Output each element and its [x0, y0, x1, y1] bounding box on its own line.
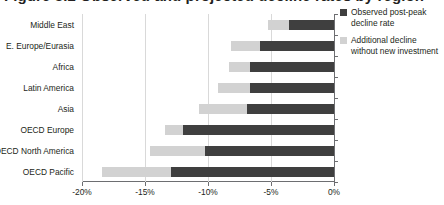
category-tick — [334, 98, 338, 99]
x-axis-tick — [271, 182, 272, 186]
category-label: OECD North America — [0, 146, 74, 154]
gridline-neg15 — [145, 14, 146, 182]
bar-segment-observed — [171, 167, 334, 177]
category-tick — [334, 161, 338, 162]
bar-row — [82, 20, 334, 30]
bar-row — [82, 104, 334, 114]
bar-row — [82, 146, 334, 156]
bar-segment-additional — [229, 62, 249, 72]
category-tick — [334, 140, 338, 141]
category-label: OECD Pacific — [23, 167, 74, 175]
category-tick — [334, 56, 338, 57]
category-axis: Middle EastE. Europe/EurasiaAfricaLatin … — [0, 14, 78, 182]
category-label: OECD Europe — [20, 125, 74, 133]
bar-segment-observed — [205, 146, 334, 156]
bar-row — [82, 125, 334, 135]
legend-swatch-observed-icon — [340, 9, 347, 16]
category-label: Africa — [53, 62, 74, 70]
bar-row — [82, 62, 334, 72]
legend-item-additional: Additional decline without new investmen… — [340, 35, 444, 56]
x-axis-tick — [145, 182, 146, 186]
category-tick — [334, 119, 338, 120]
bar-segment-additional — [268, 20, 288, 30]
x-axis-tick-label: 0% — [328, 188, 340, 196]
category-tick — [334, 77, 338, 78]
category-label: E. Europe/Eurasia — [6, 41, 74, 49]
bar-segment-observed — [183, 125, 334, 135]
bar-segment-additional — [218, 83, 250, 93]
category-tick — [334, 35, 338, 36]
bar-segment-observed — [247, 104, 334, 114]
x-axis-tick — [334, 182, 335, 186]
bar-row — [82, 167, 334, 177]
gridline-neg5 — [271, 14, 272, 182]
x-axis-tick-label: -15% — [135, 188, 155, 196]
x-axis-tick-label: -5% — [264, 188, 279, 196]
category-label: Asia — [58, 104, 74, 112]
bar-row — [82, 83, 334, 93]
bar-segment-observed — [289, 20, 334, 30]
chart-legend: Observed post-peak decline rate Addition… — [340, 7, 444, 63]
gridline-neg10 — [208, 14, 209, 182]
bar-segment-additional — [165, 125, 183, 135]
plot-area — [82, 14, 334, 182]
bar-segment-additional — [150, 146, 205, 156]
category-label: Latin America — [23, 83, 74, 91]
x-axis-tick-label: -10% — [198, 188, 218, 196]
bar-segment-additional — [199, 104, 247, 114]
legend-swatch-additional-icon — [340, 37, 347, 44]
bar-segment-observed — [250, 62, 334, 72]
x-axis-tick — [82, 182, 83, 186]
bar-row — [82, 41, 334, 51]
bar-segment-observed — [250, 83, 334, 93]
legend-label-observed: Observed post-peak decline rate — [351, 7, 444, 28]
legend-label-additional: Additional decline without new investmen… — [351, 35, 444, 56]
category-tick — [334, 14, 338, 15]
category-label: Middle East — [30, 20, 74, 28]
legend-item-observed: Observed post-peak decline rate — [340, 7, 444, 28]
gridline-neg20 — [82, 14, 83, 182]
bar-segment-additional — [231, 41, 260, 51]
x-axis-tick-label: -20% — [72, 188, 92, 196]
bar-segment-observed — [260, 41, 334, 51]
bar-segment-additional — [102, 167, 171, 177]
x-axis-tick — [208, 182, 209, 186]
